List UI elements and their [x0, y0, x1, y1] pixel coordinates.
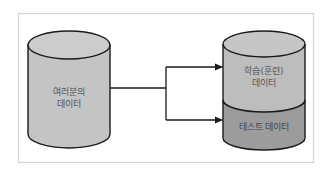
split-data-cylinder: 학습(훈련) 데이터 테스트 데이터 — [223, 31, 305, 150]
source-data-cylinder: 여러분의 데이터 — [28, 31, 110, 148]
source-data-label-line2: 데이터 — [57, 99, 81, 109]
train-data-label-line2: 데이터 — [252, 78, 276, 88]
test-data-label: 테스트 데이터 — [239, 122, 290, 132]
data-split-diagram: 여러분의 데이터 학습(훈련) 데이터 테스트 데이터 — [0, 0, 334, 173]
source-data-label-line1: 여러분의 — [53, 86, 85, 97]
train-data-label-line1: 학습(훈련) — [244, 65, 283, 76]
